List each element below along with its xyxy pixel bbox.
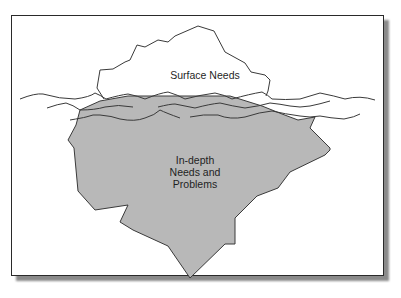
in-depth-needs-label: In-depth Needs and Problems bbox=[140, 154, 250, 190]
in-depth-line-1: In-depth bbox=[140, 154, 250, 166]
iceberg-surface-outline bbox=[97, 26, 270, 99]
in-depth-line-3: Problems bbox=[140, 178, 250, 190]
iceberg-diagram bbox=[0, 0, 401, 298]
in-depth-line-2: Needs and bbox=[140, 166, 250, 178]
surface-needs-label: Surface Needs bbox=[150, 69, 260, 81]
